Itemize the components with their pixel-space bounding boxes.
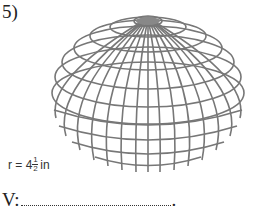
radius-label: r = 4 1 2 in: [8, 156, 50, 173]
answer-label: V:: [2, 189, 20, 211]
fraction-denominator: 2: [33, 165, 37, 173]
radius-fraction: 1 2: [32, 156, 38, 173]
answer-blank[interactable]: [21, 204, 171, 206]
radius-prefix: r = 4: [8, 158, 32, 172]
radius-unit: in: [40, 158, 49, 172]
sphere-wireframe-figure: [50, 8, 246, 174]
question-number: 5): [2, 1, 18, 23]
answer-line: V: .: [2, 189, 176, 211]
fraction-numerator: 1: [33, 156, 37, 164]
answer-terminator: .: [172, 189, 177, 211]
